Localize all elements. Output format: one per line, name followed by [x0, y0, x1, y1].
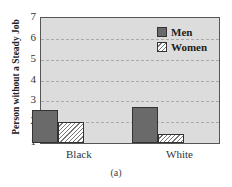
category-label-black: Black	[66, 148, 92, 160]
legend-label: Women	[171, 41, 207, 53]
figure-caption: (a)	[0, 167, 232, 178]
gridline	[41, 81, 219, 82]
plot-area: Men Women	[40, 17, 220, 144]
legend-item-men: Men	[157, 24, 207, 39]
bar-black-men	[32, 110, 58, 143]
legend: Men Women	[157, 24, 207, 54]
bar-white-women	[158, 134, 184, 143]
y-tick-label: 4	[26, 73, 36, 85]
y-tick-label: 7	[26, 10, 36, 22]
y-tick-label: 3	[26, 93, 36, 105]
women-swatch-icon	[157, 42, 167, 52]
y-tick-label: 6	[26, 31, 36, 43]
gridline	[41, 101, 219, 102]
category-label-white: White	[166, 148, 193, 160]
legend-item-women: Women	[157, 39, 207, 54]
gridline	[41, 60, 219, 61]
bar-white-men	[132, 107, 158, 143]
bar-black-women	[58, 122, 84, 143]
y-axis-label: Person without a Steady Job	[11, 13, 21, 141]
men-swatch-icon	[157, 27, 167, 37]
y-tick-label: 5	[26, 52, 36, 64]
legend-label: Men	[171, 26, 192, 38]
